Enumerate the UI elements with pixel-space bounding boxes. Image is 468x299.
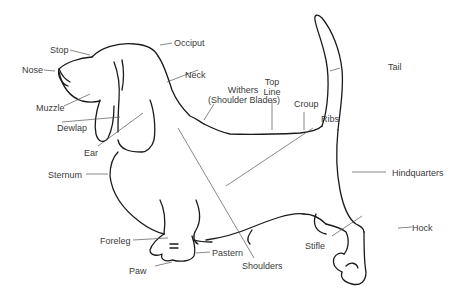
label-croup: Croup bbox=[294, 99, 319, 109]
label-top-line-2: Line bbox=[263, 87, 280, 97]
label-occiput: Occiput bbox=[174, 38, 205, 48]
label-stifle: Stifle bbox=[305, 241, 325, 251]
label-pastern: Pastern bbox=[212, 248, 243, 258]
dog-anatomy-diagram: Stop Nose Muzzle Dewlap Ear Sternum Fore… bbox=[0, 0, 468, 299]
label-tail: Tail bbox=[388, 62, 402, 72]
label-stop: Stop bbox=[50, 45, 69, 55]
label-hindquarters: Hindquarters bbox=[392, 168, 444, 178]
label-neck: Neck bbox=[185, 70, 206, 80]
label-ear: Ear bbox=[84, 148, 98, 158]
label-dewlap: Dewlap bbox=[57, 123, 87, 133]
label-top-line-1: Top bbox=[265, 77, 280, 87]
label-foreleg: Foreleg bbox=[100, 236, 131, 246]
label-ribs: Ribs bbox=[321, 114, 339, 124]
label-muzzle: Muzzle bbox=[36, 103, 65, 113]
label-shoulders: Shoulders bbox=[242, 261, 283, 271]
label-sternum: Sternum bbox=[48, 170, 82, 180]
label-top-line: Top Line bbox=[260, 77, 284, 97]
label-paw: Paw bbox=[129, 266, 147, 276]
label-withers-line1: Withers bbox=[228, 85, 259, 95]
label-nose: Nose bbox=[22, 65, 43, 75]
label-hock: Hock bbox=[412, 223, 433, 233]
